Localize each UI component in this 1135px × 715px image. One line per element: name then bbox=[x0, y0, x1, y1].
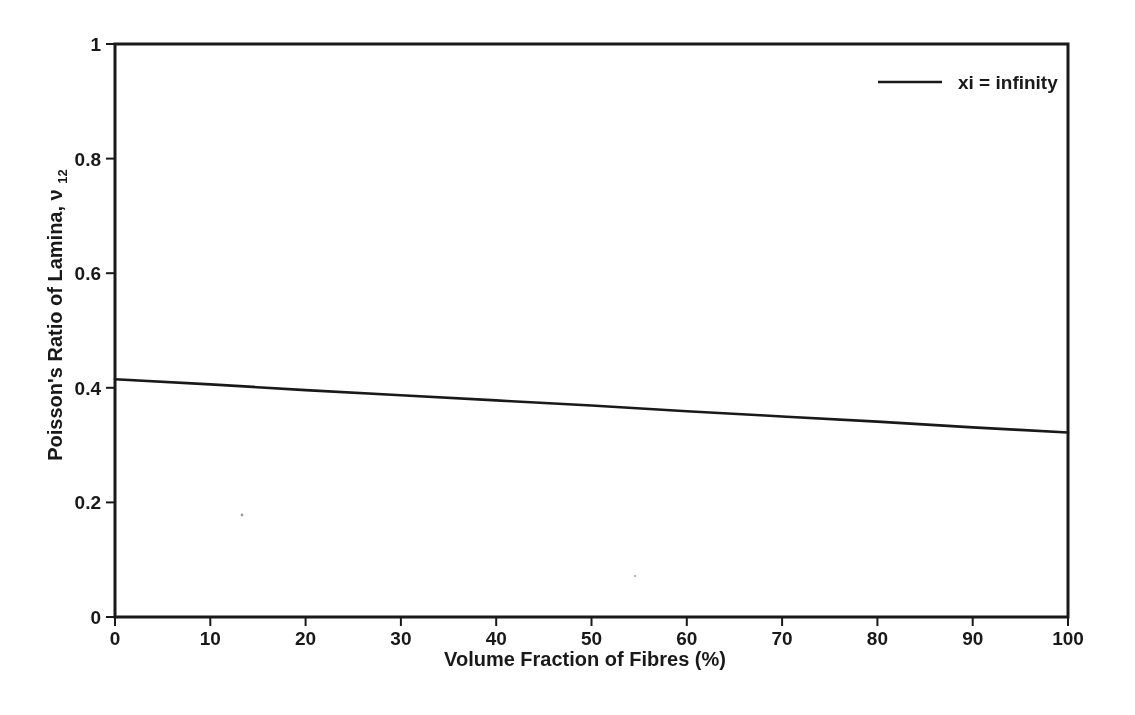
data-line-xi-infinity bbox=[115, 379, 1068, 432]
y-tick-label: 1 bbox=[90, 34, 101, 55]
legend-label: xi = infinity bbox=[958, 72, 1058, 93]
y-tick-label: 0.2 bbox=[75, 492, 101, 513]
y-axis-title-text: Poisson's Ratio of Lamina, bbox=[44, 200, 66, 460]
x-tick-label: 30 bbox=[390, 628, 411, 649]
y-tick-label: 0.6 bbox=[75, 263, 101, 284]
y-axis-ticks: 00.20.40.60.81 bbox=[75, 34, 115, 628]
x-tick-label: 0 bbox=[110, 628, 121, 649]
y-axis-title-subscript: 12 bbox=[55, 169, 70, 183]
legend: xi = infinity bbox=[878, 72, 1058, 93]
poisson-ratio-chart: 0102030405060708090100 00.20.40.60.81 xi… bbox=[0, 0, 1135, 715]
x-tick-label: 70 bbox=[772, 628, 793, 649]
y-axis-title: Poisson's Ratio of Lamina, ν 12 bbox=[44, 169, 70, 461]
x-tick-label: 100 bbox=[1052, 628, 1084, 649]
scan-speck bbox=[241, 514, 244, 517]
x-axis-title: Volume Fraction of Fibres (%) bbox=[444, 648, 726, 670]
x-tick-label: 50 bbox=[581, 628, 602, 649]
plot-frame bbox=[115, 44, 1068, 617]
y-tick-label: 0 bbox=[90, 607, 101, 628]
x-tick-label: 10 bbox=[200, 628, 221, 649]
x-tick-label: 60 bbox=[676, 628, 697, 649]
x-tick-label: 90 bbox=[962, 628, 983, 649]
scan-speck bbox=[634, 575, 636, 577]
x-tick-label: 40 bbox=[486, 628, 507, 649]
x-axis-ticks: 0102030405060708090100 bbox=[110, 617, 1084, 649]
y-tick-label: 0.8 bbox=[75, 149, 101, 170]
x-tick-label: 80 bbox=[867, 628, 888, 649]
nu-symbol: ν bbox=[44, 189, 66, 200]
x-tick-label: 20 bbox=[295, 628, 316, 649]
y-tick-label: 0.4 bbox=[75, 378, 102, 399]
scanned-chart-figure: 0102030405060708090100 00.20.40.60.81 xi… bbox=[0, 0, 1135, 715]
